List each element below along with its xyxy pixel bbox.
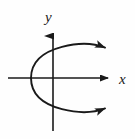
parabola-lower-branch	[31, 78, 105, 112]
parabola-upper-branch	[31, 44, 105, 78]
coordinate-graph-svg: x y	[0, 0, 135, 139]
parabola-figure: x y	[0, 0, 135, 139]
y-axis-label: y	[43, 9, 52, 25]
x-axis-label: x	[118, 71, 126, 87]
